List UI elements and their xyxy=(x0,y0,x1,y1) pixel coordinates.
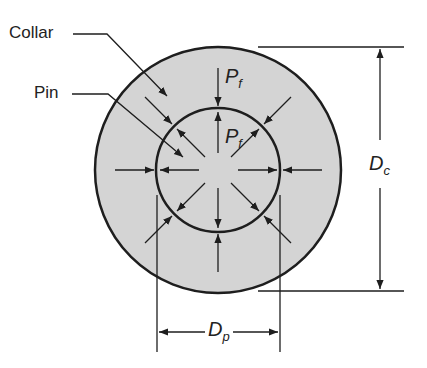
pin-diameter-symbol: D xyxy=(208,318,222,340)
collar-diameter-symbol: D xyxy=(369,152,383,174)
outer-pressure-label: Pf xyxy=(225,65,242,88)
pin-diameter-subscript: p xyxy=(222,329,229,344)
collar-label: Collar xyxy=(9,23,53,43)
press-fit-diagram xyxy=(0,0,427,368)
collar-diameter-label: Dc xyxy=(369,152,390,175)
outer-pressure-symbol: P xyxy=(225,65,238,87)
outer-pressure-subscript: f xyxy=(238,76,242,91)
inner-pressure-symbol: P xyxy=(225,125,238,147)
inner-pressure-subscript: f xyxy=(238,136,242,151)
inner-pressure-label: Pf xyxy=(225,125,242,148)
pin-diameter-label: Dp xyxy=(208,318,230,341)
pin-label: Pin xyxy=(34,83,59,103)
collar-diameter-subscript: c xyxy=(383,163,390,178)
